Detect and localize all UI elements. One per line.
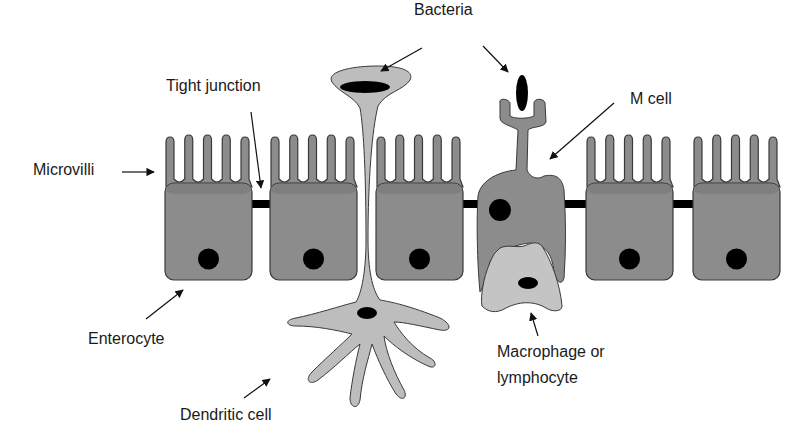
dendritic-cell-arrow bbox=[244, 379, 270, 398]
tight-junction-bar bbox=[564, 200, 588, 208]
label-dendritic-cell: Dendritic cell bbox=[180, 405, 272, 425]
microvilli bbox=[377, 135, 463, 187]
microvilli bbox=[587, 135, 673, 187]
label-m-cell: M cell bbox=[630, 89, 672, 109]
enterocyte-nucleus bbox=[726, 249, 747, 270]
enterocyte bbox=[376, 135, 463, 280]
enterocyte-nucleus bbox=[619, 249, 640, 270]
enterocyte bbox=[693, 135, 780, 280]
enterocyte bbox=[165, 135, 252, 280]
enterocyte-brush-border bbox=[694, 184, 779, 194]
enterocyte bbox=[586, 135, 673, 280]
bacteria-arrow-left bbox=[381, 48, 422, 71]
enterocyte-brush-border bbox=[271, 184, 356, 194]
tight-junction-arrow bbox=[251, 112, 261, 188]
label-enterocyte: Enterocyte bbox=[88, 329, 164, 349]
enterocyte-brush-border bbox=[166, 184, 251, 194]
enterocyte-nucleus bbox=[198, 249, 219, 270]
m-cell-arrow bbox=[550, 103, 614, 159]
tight-junction-bar bbox=[250, 200, 272, 208]
label-bacteria: Bacteria bbox=[414, 0, 473, 20]
enterocyte-brush-border bbox=[377, 184, 462, 194]
enterocyte-nucleus bbox=[303, 249, 324, 270]
m-cell-nucleus bbox=[489, 199, 511, 221]
microvilli bbox=[271, 135, 357, 187]
bacterium bbox=[516, 75, 528, 111]
enterocyte bbox=[270, 135, 357, 280]
microvilli bbox=[166, 135, 252, 187]
tight-junction-bar bbox=[672, 200, 695, 208]
label-macrophage-line2: lymphocyte bbox=[497, 368, 578, 388]
macrophage-arrow bbox=[531, 313, 538, 336]
bacteria-arrow-right bbox=[483, 46, 508, 72]
enterocyte-arrow bbox=[146, 290, 183, 319]
dendritic-bacterium bbox=[340, 81, 390, 93]
label-microvilli: Microvilli bbox=[33, 160, 94, 180]
enterocyte-nucleus bbox=[409, 249, 430, 270]
enterocyte-brush-border bbox=[587, 184, 672, 194]
label-macrophage-line1: Macrophage or bbox=[497, 342, 605, 362]
label-tight-junction: Tight junction bbox=[166, 76, 261, 96]
diagram-canvas bbox=[0, 0, 808, 446]
dendritic-nucleus bbox=[357, 307, 377, 319]
microvilli bbox=[694, 135, 780, 187]
macrophage-nucleus bbox=[518, 277, 538, 289]
